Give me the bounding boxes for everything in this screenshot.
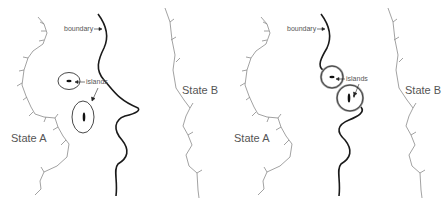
islands-label: islands [86,78,108,85]
right-map [223,0,446,204]
islands-label: islands [346,75,368,82]
state-a-hatch [17,22,66,172]
state-b-label: State B [405,84,441,96]
state-b-coastline [388,8,422,198]
state-a-label: State A [11,132,46,144]
right-panel: boundary islands State A State B [223,0,446,204]
boundary-label: boundary [64,25,93,32]
boundary-label: boundary [287,25,316,32]
state-a-coastline [245,17,292,195]
boundary-line-lower [339,107,363,196]
state-b-label: State B [182,84,218,96]
state-b-hatch [393,19,425,173]
state-a-label: State A [234,132,269,144]
island-1 [321,66,343,88]
island-2 [337,85,363,111]
state-b-coastline [165,8,199,198]
state-a-hatch [240,22,289,172]
boundary-line-upper [320,14,329,70]
state-a-coastline [22,17,69,195]
island-2 [72,101,94,133]
left-map [0,0,223,204]
left-panel: boundary islands State A State B [0,0,223,204]
boundary-line [98,14,139,196]
state-b-hatch [170,19,202,173]
